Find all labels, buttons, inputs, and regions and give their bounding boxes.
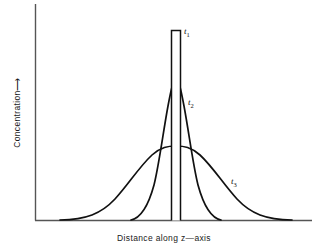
curve-t1 [172, 31, 181, 221]
plot-canvas [0, 0, 314, 248]
figure-container: Concentration⟶ Distance along z—axis t1 … [0, 0, 314, 248]
